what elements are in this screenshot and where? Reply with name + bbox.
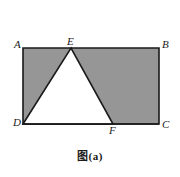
vertex-label-c: C (162, 119, 169, 130)
vertex-label-a: A (14, 39, 21, 50)
vertex-label-d: D (13, 117, 21, 128)
figure-container: A E B D F C 图(a) (0, 0, 180, 177)
vertex-label-b: B (162, 39, 169, 50)
vertex-label-e: E (67, 36, 74, 47)
figure-caption: 图(a) (0, 149, 180, 163)
vertex-label-f: F (109, 125, 116, 136)
